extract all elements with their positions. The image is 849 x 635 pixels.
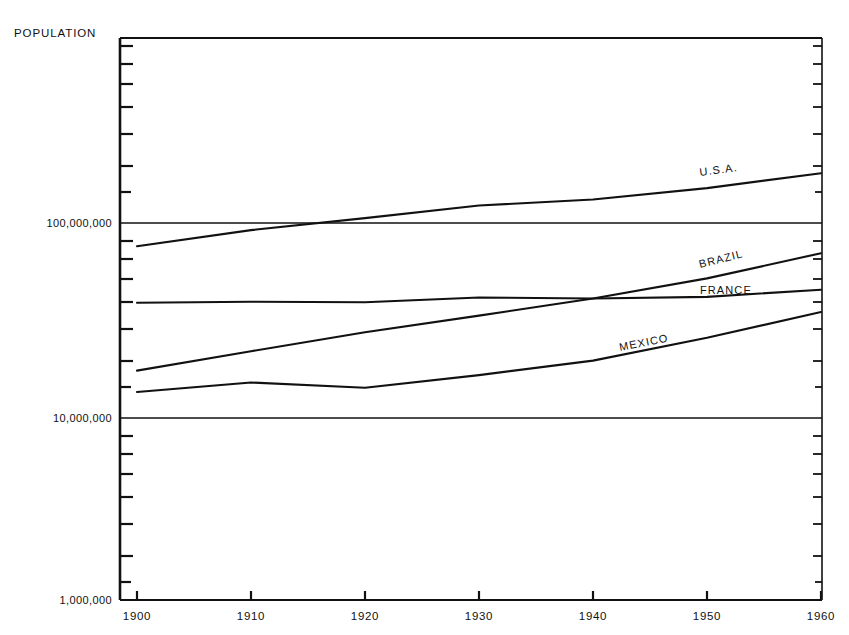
x-tick-label-1930: 1930 xyxy=(465,610,493,622)
x-tick-label-1920: 1920 xyxy=(351,610,379,622)
x-axis-ticks xyxy=(137,591,821,600)
series-label-brazil: BRAZIL xyxy=(698,247,745,270)
population-line-chart: POPULATION 100,000,000 10,000,000 1,000,… xyxy=(0,0,849,635)
series-label-france: FRANCE xyxy=(700,284,752,296)
x-tick-label-1900: 1900 xyxy=(123,610,151,622)
y-tick-label-1m: 1,000,000 xyxy=(59,594,112,606)
plot-frame xyxy=(120,38,822,600)
x-tick-label-1910: 1910 xyxy=(237,610,265,622)
chart-canvas: POPULATION 100,000,000 10,000,000 1,000,… xyxy=(0,0,849,635)
y-tick-label-100m: 100,000,000 xyxy=(46,217,112,229)
series-line-usa xyxy=(137,173,821,246)
x-tick-label-1940: 1940 xyxy=(579,610,607,622)
gridlines xyxy=(120,223,822,418)
y-tick-label-10m: 10,000,000 xyxy=(53,412,112,424)
series-line-brazil xyxy=(137,253,821,370)
series-label-usa: U.S.A. xyxy=(699,161,739,178)
series-line-mexico xyxy=(137,312,821,392)
series-lines xyxy=(137,173,821,392)
x-tick-label-1950: 1950 xyxy=(693,610,721,622)
y-axis-minor-ticks-left xyxy=(120,46,133,582)
y-axis-title: POPULATION xyxy=(14,27,96,39)
x-tick-label-1960: 1960 xyxy=(807,610,835,622)
